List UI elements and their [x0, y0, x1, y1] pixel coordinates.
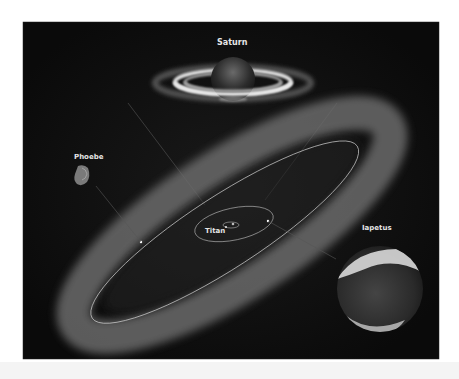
label-phoebe: Phoebe — [74, 153, 103, 161]
saturn-ring-illustration — [0, 0, 459, 379]
label-titan: Titan — [205, 227, 225, 235]
titan-dot — [225, 226, 227, 228]
saturn-center-dot — [232, 223, 235, 226]
label-saturn: Saturn — [217, 38, 247, 47]
label-iapetus: Iapetus — [362, 224, 392, 232]
